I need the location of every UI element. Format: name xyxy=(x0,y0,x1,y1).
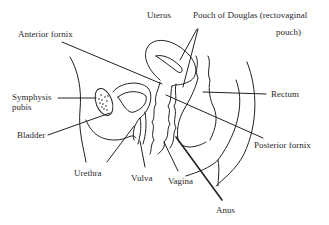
leader-urethra xyxy=(107,126,134,162)
label-symphysis-pubis-cont: pubis xyxy=(12,102,32,112)
label-bladder: Bladder xyxy=(17,130,46,140)
label-posterior-fornix: Posterior fornix xyxy=(254,140,311,150)
label-urethra: Urethra xyxy=(74,168,101,178)
label-anterior-fornix: Anterior fornix xyxy=(18,29,73,39)
label-pouch-of-douglas-cont: pouch) xyxy=(276,27,301,37)
label-symphysis-pubis: Symphysis xyxy=(12,92,52,102)
uterus-outer xyxy=(145,40,195,86)
label-rectum: Rectum xyxy=(271,89,299,99)
label-pouch-of-douglas: Pouch of Douglas (rectovaginal xyxy=(193,10,307,20)
rectum-wall-2 xyxy=(208,56,216,140)
symphysis-stipple xyxy=(98,94,109,111)
leader-bladder xyxy=(48,113,110,135)
uterus-cavity xyxy=(156,55,182,72)
label-vulva: Vulva xyxy=(131,173,152,183)
abdomen-outline xyxy=(70,57,86,162)
urethra-outline xyxy=(138,118,141,144)
leader-anus xyxy=(176,137,222,200)
leader-pouch xyxy=(183,29,198,87)
sacrum-curve xyxy=(216,62,255,186)
symphysis-pubis-shape xyxy=(92,86,117,118)
label-vagina: Vagina xyxy=(168,176,193,186)
vagina-wall-anterior xyxy=(150,82,160,154)
leader-rectum xyxy=(203,92,266,94)
bladder-outline xyxy=(86,120,136,140)
leader-vulva xyxy=(140,141,145,167)
label-anus: Anus xyxy=(216,205,235,215)
anatomy-diagram: Uterus Pouch of Douglas (rectovaginal po… xyxy=(0,0,329,225)
label-uterus: Uterus xyxy=(147,10,171,20)
